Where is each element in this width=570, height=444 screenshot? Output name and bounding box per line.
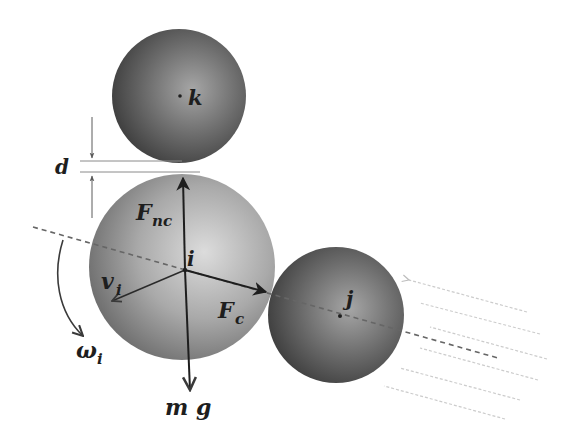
label-omega-sub: i bbox=[97, 350, 103, 368]
particle-j: j bbox=[268, 247, 404, 383]
label-gravity: m g bbox=[165, 394, 211, 420]
flow-lines bbox=[384, 280, 547, 419]
label-d: d bbox=[55, 155, 69, 179]
particle-i bbox=[89, 174, 275, 360]
flow-line bbox=[384, 386, 505, 419]
particle-k: k bbox=[112, 29, 246, 163]
label-omega-main: ω bbox=[76, 337, 97, 363]
label-v-sub: i bbox=[116, 281, 122, 299]
sphere-i bbox=[89, 174, 275, 360]
label-angular-velocity: ω i bbox=[76, 337, 103, 368]
label-v-main: v bbox=[101, 268, 114, 294]
sphere-j bbox=[268, 247, 404, 383]
label-fnc-sub: nc bbox=[152, 212, 172, 230]
flow-line-arrow bbox=[409, 280, 527, 312]
label-fc-sub: c bbox=[235, 310, 244, 328]
label-fnc-main: F bbox=[135, 199, 153, 225]
center-dot-k bbox=[178, 94, 182, 98]
center-dot-j bbox=[338, 314, 342, 318]
angular-velocity-arrow bbox=[58, 240, 83, 336]
label-k: k bbox=[188, 85, 203, 110]
label-i: i bbox=[187, 247, 195, 271]
label-fc-main: F bbox=[217, 297, 235, 323]
particle-contact-diagram: k d j i F nc F c v i bbox=[0, 0, 570, 444]
